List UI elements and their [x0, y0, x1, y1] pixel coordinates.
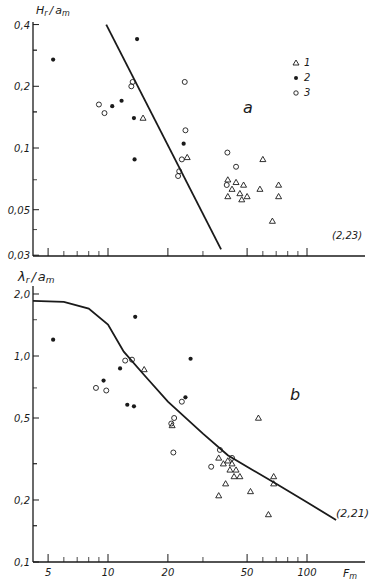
triangle-marker [225, 193, 231, 198]
open-circle-marker [224, 182, 229, 187]
panel-b-y-axis-label: λr/am [17, 269, 55, 285]
open-circle-marker [234, 164, 239, 169]
y-tick-label: 0,2 [14, 81, 30, 92]
open-circle-marker [102, 111, 107, 116]
filled-circle-marker [125, 403, 129, 407]
open-circle-marker [123, 358, 128, 363]
x-tick-label: 10 [102, 567, 115, 578]
panel-a-equation-ref: (2,23) [332, 230, 362, 241]
triangle-marker [231, 474, 237, 479]
y-tick-label: 2,0 [14, 289, 30, 300]
figure: 0,40,20,10,050,03 Hr/am a (2,23) 1 2 3 2… [0, 0, 375, 587]
open-circle-marker [225, 150, 230, 155]
triangle-marker [216, 455, 222, 460]
triangle-marker [276, 193, 282, 198]
triangle-marker [241, 182, 247, 187]
open-circle-marker [96, 102, 101, 107]
x-tick-label: 50 [241, 567, 254, 578]
legend-open-circle-icon [294, 91, 298, 95]
panel-a-data-points [51, 37, 282, 223]
triangle-marker [233, 179, 239, 184]
filled-circle-marker [110, 104, 114, 108]
triangle-marker [140, 115, 146, 120]
triangle-marker [269, 218, 275, 223]
legend: 1 2 3 [293, 57, 310, 98]
filled-circle-marker [51, 57, 55, 61]
triangle-marker [271, 474, 277, 479]
filled-circle-marker [51, 338, 55, 342]
open-circle-marker [182, 79, 187, 84]
filled-circle-marker [132, 404, 136, 408]
y-tick-label: 0,1 [14, 557, 30, 568]
filled-circle-marker [135, 37, 139, 41]
triangle-marker [260, 156, 266, 161]
panel-a-regression-line [106, 25, 221, 250]
filled-circle-marker [119, 99, 123, 103]
panel-b-curve [33, 301, 336, 520]
triangle-marker [237, 190, 243, 195]
legend-label-2: 2 [304, 72, 310, 83]
panel-b-data-points [51, 315, 277, 517]
triangle-marker [141, 366, 147, 371]
x-tick-label: 5 [45, 567, 51, 578]
filled-circle-marker [101, 378, 105, 382]
filled-circle-marker [183, 395, 187, 399]
panel-b-chart: 2,01,00,50,20,15102050100 λr/am b (2,21)… [14, 269, 369, 581]
triangle-marker [276, 182, 282, 187]
triangle-marker [227, 467, 233, 472]
triangle-marker [257, 186, 263, 191]
panel-a-tag: a [243, 98, 253, 117]
triangle-marker [229, 186, 235, 191]
legend-label-3: 3 [304, 87, 310, 98]
triangle-marker [255, 415, 261, 420]
triangle-marker [184, 154, 190, 159]
x-axis-label: Fm [343, 567, 357, 581]
open-circle-marker [171, 450, 176, 455]
panel-a-axes: 0,40,20,10,050,03 [8, 20, 365, 262]
y-tick-label: 0,05 [8, 205, 30, 216]
triangle-marker [233, 467, 239, 472]
y-tick-label: 0,4 [14, 20, 30, 31]
panel-a-y-axis-label: Hr/am [36, 4, 70, 18]
open-circle-marker [183, 128, 188, 133]
panel-a-chart: 0,40,20,10,050,03 Hr/am a (2,23) 1 2 3 [8, 4, 365, 261]
filled-circle-marker [188, 357, 192, 361]
open-circle-marker [172, 416, 177, 421]
triangle-marker [225, 177, 231, 182]
y-tick-label: 0,03 [8, 250, 30, 261]
open-circle-marker [104, 388, 109, 393]
open-circle-marker [179, 399, 184, 404]
filled-circle-marker [118, 366, 122, 370]
open-circle-marker [209, 464, 214, 469]
filled-circle-marker [133, 315, 137, 319]
open-circle-marker [179, 157, 184, 162]
triangle-marker [237, 474, 243, 479]
filled-circle-marker [132, 157, 136, 161]
legend-triangle-icon [293, 60, 299, 65]
x-tick-label: 100 [297, 567, 316, 578]
legend-filled-circle-icon [294, 76, 298, 80]
triangle-marker [265, 512, 271, 517]
triangle-marker [216, 493, 222, 498]
y-tick-label: 1,0 [14, 351, 30, 362]
triangle-marker [244, 193, 250, 198]
triangle-marker [223, 481, 229, 486]
triangle-marker [247, 488, 253, 493]
panel-b-tag: b [290, 385, 300, 404]
x-tick-label: 20 [162, 567, 175, 578]
legend-label-1: 1 [304, 57, 310, 68]
panel-b-axes: 2,01,00,50,20,15102050100 [14, 286, 365, 578]
filled-circle-marker [182, 142, 186, 146]
triangle-marker [239, 197, 245, 202]
open-circle-marker [93, 385, 98, 390]
y-tick-label: 0,2 [14, 495, 30, 506]
y-tick-label: 0,5 [14, 413, 30, 424]
panel-b-equation-ref: (2,21) [336, 507, 369, 520]
filled-circle-marker [132, 116, 136, 120]
y-tick-label: 0,1 [14, 143, 30, 154]
open-circle-marker [176, 174, 181, 179]
